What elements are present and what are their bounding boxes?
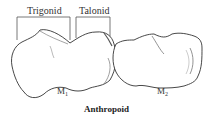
figure-caption: Anthropoid	[0, 104, 213, 114]
trigonid-label: Trigonid	[27, 6, 62, 16]
m2-label: M2	[157, 87, 168, 97]
m1-label: M1	[57, 87, 68, 97]
talonid-label: Talonid	[79, 6, 109, 16]
m1-base: M	[57, 86, 65, 96]
m1-subscript: 1	[65, 91, 68, 97]
m2-subscript: 2	[165, 91, 168, 97]
m2-base: M	[157, 86, 165, 96]
m2-tooth-outline	[113, 33, 202, 88]
